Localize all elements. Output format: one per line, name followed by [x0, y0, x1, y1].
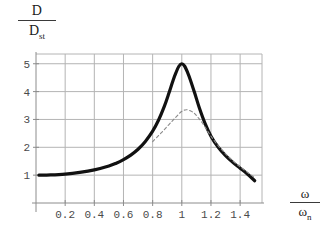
- axis-lines: [32, 52, 264, 212]
- plot-area: 0.20.40.60.811.21.412345: [0, 0, 329, 235]
- data-curves: [39, 64, 255, 181]
- y-axis-tick-label: 4: [23, 87, 30, 99]
- x-axis-tick-label: 0.8: [143, 209, 163, 221]
- x-axis-tick-label: 1.4: [230, 209, 250, 221]
- grid-lines: [36, 54, 262, 203]
- x-axis-tick-label: 1.2: [201, 209, 221, 221]
- damping-response-figure: D Dst ω ωn 0.20.40.60.811.21.412345: [0, 0, 329, 235]
- curve-solid: [39, 64, 255, 181]
- x-axis-tick-label: 0.4: [84, 209, 104, 221]
- x-axis-tick-label: 0.2: [55, 209, 75, 221]
- y-axis-tick-label: 3: [23, 114, 30, 126]
- x-axis-tick-label: 0.6: [114, 209, 134, 221]
- y-axis-tick-label: 1: [23, 170, 30, 182]
- y-axis-tick-label: 5: [23, 59, 30, 71]
- tick-labels: 0.20.40.60.811.21.412345: [23, 59, 250, 221]
- x-axis-tick-label: 1: [179, 209, 186, 221]
- y-axis-tick-label: 2: [23, 142, 30, 154]
